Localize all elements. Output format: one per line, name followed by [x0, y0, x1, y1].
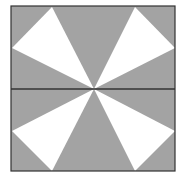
pinwheel-diagram	[0, 0, 179, 179]
